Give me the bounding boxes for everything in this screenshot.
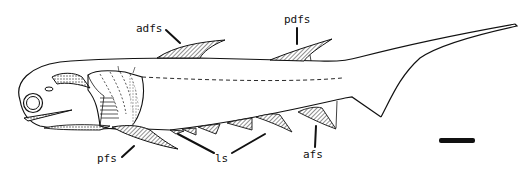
label-pfs: pfs bbox=[97, 153, 117, 164]
posterior-dorsal-fin-spine bbox=[270, 39, 332, 61]
label-pdfs: pdfs bbox=[284, 14, 311, 25]
anterior-dorsal-fin-spine bbox=[157, 40, 225, 58]
label-adfs: adfs bbox=[136, 23, 163, 34]
scale-bar bbox=[439, 138, 475, 143]
label-afs: afs bbox=[303, 149, 323, 160]
head bbox=[24, 66, 144, 130]
ventral-spines bbox=[170, 107, 336, 135]
fish-illustration: adfs pdfs pfs ls afs bbox=[0, 0, 529, 173]
pectoral-fin-spine bbox=[112, 126, 178, 149]
fish-drawing bbox=[0, 0, 529, 173]
label-ls: ls bbox=[215, 153, 228, 164]
